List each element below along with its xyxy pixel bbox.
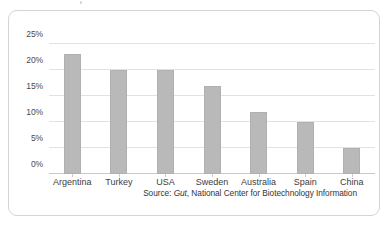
x-axis-label-sweden: Sweden: [189, 177, 236, 187]
bar-turkey[interactable]: [110, 70, 127, 174]
bar-argentina[interactable]: [64, 54, 81, 174]
bar-china[interactable]: [343, 148, 360, 174]
bar-slot: [49, 44, 96, 174]
bar-slot: [96, 44, 143, 174]
bar-slot: [142, 44, 189, 174]
x-axis-label-spain: Spain: [282, 177, 329, 187]
y-axis-tick-label: 10%: [26, 107, 43, 117]
chart-figure: 0%5%10%15%20%25% ArgentinaTurkeyUSASwede…: [0, 0, 390, 225]
bar-sweden[interactable]: [204, 86, 221, 174]
x-axis-label-usa: USA: [142, 177, 189, 187]
source-suffix: , National Center for Biotechnology Info…: [187, 188, 357, 198]
source-caption: Source: Gut, National Center for Biotech…: [143, 188, 357, 198]
y-axis-tick-label: 15%: [26, 81, 43, 91]
scan-artifact: [80, 1, 82, 4]
chart-frame: 0%5%10%15%20%25% ArgentinaTurkeyUSASwede…: [8, 10, 380, 216]
bar-spain[interactable]: [297, 122, 314, 174]
bar-slot: [235, 44, 282, 174]
plot-area: 0%5%10%15%20%25%: [49, 44, 375, 174]
y-axis-tick-label: 0%: [31, 159, 43, 169]
x-axis-labels: ArgentinaTurkeyUSASwedenAustraliaSpainCh…: [49, 177, 375, 187]
y-axis-tick-label: 25%: [26, 29, 43, 39]
bar-slot: [328, 44, 375, 174]
source-prefix: Source:: [143, 188, 174, 198]
source-publication: Gut: [174, 188, 187, 198]
bar-series: [49, 44, 375, 174]
y-axis-tick-label: 20%: [26, 55, 43, 65]
bar-australia[interactable]: [250, 112, 267, 174]
bar-slot: [282, 44, 329, 174]
bar-slot: [189, 44, 236, 174]
bar-usa[interactable]: [157, 70, 174, 174]
x-axis-label-australia: Australia: [235, 177, 282, 187]
x-axis-label-turkey: Turkey: [96, 177, 143, 187]
x-axis-label-china: China: [328, 177, 375, 187]
x-axis-label-argentina: Argentina: [49, 177, 96, 187]
y-axis-tick-label: 5%: [31, 133, 43, 143]
